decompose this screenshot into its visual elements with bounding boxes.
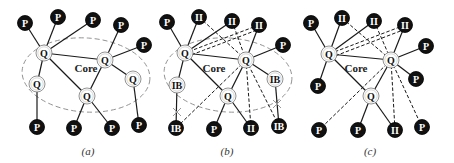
core-label: Core bbox=[74, 62, 97, 74]
svg-text:P: P bbox=[280, 40, 286, 51]
node-q-light: Q bbox=[125, 71, 141, 87]
node-p-dark: P bbox=[18, 16, 33, 31]
svg-text:P: P bbox=[423, 41, 429, 52]
svg-text:Q: Q bbox=[325, 49, 333, 60]
svg-text:Q: Q bbox=[129, 74, 137, 85]
svg-text:Q: Q bbox=[224, 91, 232, 102]
link-solid bbox=[185, 53, 228, 96]
node-p-dark: P bbox=[137, 38, 152, 53]
svg-text:P: P bbox=[90, 15, 96, 26]
link-solid bbox=[44, 53, 87, 96]
panel-b: PIIIIIIPQQIBIBQIBPIIIBCore(b) bbox=[160, 10, 295, 159]
svg-text:II: II bbox=[228, 16, 236, 27]
svg-text:P: P bbox=[355, 125, 361, 136]
panel-caption: (a) bbox=[82, 145, 95, 158]
node-ib-dark: IB bbox=[272, 119, 287, 134]
link-dashed bbox=[246, 60, 279, 126]
node-q-light: Q bbox=[238, 52, 254, 68]
node-p-dark: P bbox=[86, 13, 101, 28]
svg-text:Q: Q bbox=[367, 91, 375, 102]
svg-text:P: P bbox=[308, 18, 314, 29]
node-q-light: Q bbox=[97, 52, 113, 68]
node-ii-dark: II bbox=[398, 18, 413, 33]
node-ii-dark: II bbox=[388, 123, 403, 138]
svg-text:Q: Q bbox=[33, 79, 41, 90]
node-p-dark: P bbox=[67, 121, 82, 136]
figure-canvas: PPPPPQQQQQPPPPCore(a) PIIIIIIPQQIBIBQIBP… bbox=[0, 0, 454, 163]
node-p-dark: P bbox=[415, 120, 430, 135]
node-p-dark: P bbox=[160, 15, 175, 30]
node-ib-dark: IB bbox=[169, 121, 184, 136]
node-ib-light: IB bbox=[169, 77, 185, 93]
link-dashed bbox=[391, 60, 422, 127]
svg-text:P: P bbox=[109, 123, 115, 134]
svg-text:P: P bbox=[316, 125, 322, 136]
node-ii-dark: II bbox=[335, 11, 350, 26]
node-ii-dark: II bbox=[244, 121, 259, 136]
node-p-dark: P bbox=[30, 120, 45, 135]
svg-text:P: P bbox=[141, 40, 147, 51]
core-label: Core bbox=[344, 62, 367, 74]
svg-text:IB: IB bbox=[172, 80, 183, 91]
node-q-light: Q bbox=[321, 46, 337, 62]
node-q-light: Q bbox=[29, 76, 45, 92]
node-q-light: Q bbox=[363, 88, 379, 104]
svg-text:II: II bbox=[255, 20, 263, 31]
svg-text:Q: Q bbox=[83, 91, 91, 102]
svg-text:P: P bbox=[136, 120, 142, 131]
node-ii-dark: II bbox=[192, 10, 207, 25]
panel-caption: (b) bbox=[221, 145, 234, 158]
svg-text:P: P bbox=[34, 122, 40, 133]
link-solid bbox=[44, 53, 105, 60]
svg-text:II: II bbox=[247, 123, 255, 134]
svg-text:P: P bbox=[118, 20, 124, 31]
node-q-light: Q bbox=[177, 45, 193, 61]
node-p-dark: P bbox=[304, 16, 319, 31]
svg-text:II: II bbox=[195, 12, 203, 23]
link-solid bbox=[329, 54, 371, 96]
node-p-dark: P bbox=[419, 39, 434, 54]
panel-caption: (c) bbox=[364, 145, 377, 158]
svg-text:IB: IB bbox=[171, 123, 182, 134]
node-p-dark: P bbox=[51, 10, 66, 25]
svg-text:P: P bbox=[164, 17, 170, 28]
node-p-dark: P bbox=[351, 123, 366, 138]
svg-text:II: II bbox=[338, 13, 346, 24]
svg-text:Q: Q bbox=[387, 55, 395, 66]
node-p-dark: P bbox=[132, 118, 147, 133]
svg-text:P: P bbox=[211, 124, 217, 135]
svg-text:P: P bbox=[413, 74, 419, 85]
node-ib-light: IB bbox=[267, 71, 283, 87]
svg-text:II: II bbox=[391, 125, 399, 136]
svg-text:P: P bbox=[419, 122, 425, 133]
node-p-dark: P bbox=[114, 18, 129, 33]
node-p-dark: P bbox=[105, 121, 120, 136]
node-p-dark: P bbox=[312, 123, 327, 138]
node-q-light: Q bbox=[220, 88, 236, 104]
link-solid bbox=[44, 20, 93, 53]
svg-text:Q: Q bbox=[242, 55, 250, 66]
svg-text:II: II bbox=[401, 20, 409, 31]
panel-a: PPPPPQQQQQPPPPCore(a) bbox=[18, 10, 153, 159]
node-ii-dark: II bbox=[367, 14, 382, 29]
svg-text:P: P bbox=[22, 18, 28, 29]
link-dashed bbox=[246, 60, 251, 128]
svg-text:Q: Q bbox=[101, 55, 109, 66]
svg-text:Q: Q bbox=[40, 48, 48, 59]
svg-text:II: II bbox=[370, 16, 378, 27]
svg-text:IB: IB bbox=[274, 121, 285, 132]
core-label: Core bbox=[202, 62, 225, 74]
node-p-dark: P bbox=[311, 79, 326, 94]
network-topology-figure: PPPPPQQQQQPPPPCore(a) PIIIIIIPQQIBIBQIBP… bbox=[0, 0, 454, 163]
node-p-dark: P bbox=[207, 122, 222, 137]
node-q-light: Q bbox=[36, 45, 52, 61]
node-q-light: Q bbox=[79, 88, 95, 104]
node-ii-dark: II bbox=[225, 14, 240, 29]
panel-c: PIIIIIIPQQPPQPPIIPCore(c) bbox=[304, 11, 434, 159]
svg-text:IB: IB bbox=[270, 74, 281, 85]
svg-text:Q: Q bbox=[181, 48, 189, 59]
node-ii-dark: II bbox=[252, 18, 267, 33]
svg-text:P: P bbox=[315, 81, 321, 92]
node-p-dark: P bbox=[276, 38, 291, 53]
svg-text:P: P bbox=[55, 12, 61, 23]
